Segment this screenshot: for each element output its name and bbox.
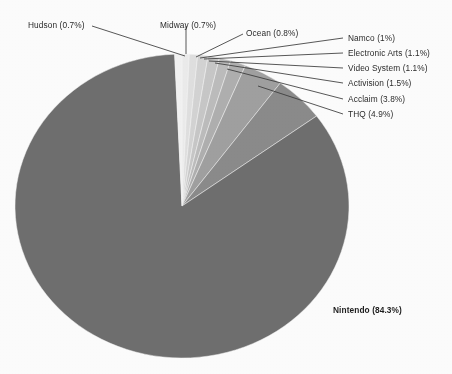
slice-label-nintendo: Nintendo (84.3%) [333, 305, 402, 315]
slice-label-thq: THQ (4.9%) [348, 109, 393, 119]
slice-label-electronic-arts: Electronic Arts (1.1%) [348, 48, 430, 58]
leader-line-hudson [92, 26, 185, 56]
leader-line-ocean [196, 34, 243, 57]
slice-label-acclaim: Acclaim (3.8%) [348, 94, 405, 104]
slice-label-activision: Activision (1.5%) [348, 78, 412, 88]
chart-canvas: Midway (0.7%)Ocean (0.8%)Namco (1%)Elect… [0, 0, 452, 374]
slice-label-ocean: Ocean (0.8%) [246, 28, 298, 38]
leader-line-namco [200, 38, 343, 58]
slice-label-namco: Namco (1%) [348, 33, 395, 43]
slice-label-midway: Midway (0.7%) [160, 20, 216, 30]
leader-line-electronic-arts [204, 53, 343, 59]
slice-label-hudson: Hudson (0.7%) [28, 20, 85, 30]
slice-label-video-system: Video System (1.1%) [348, 63, 428, 73]
